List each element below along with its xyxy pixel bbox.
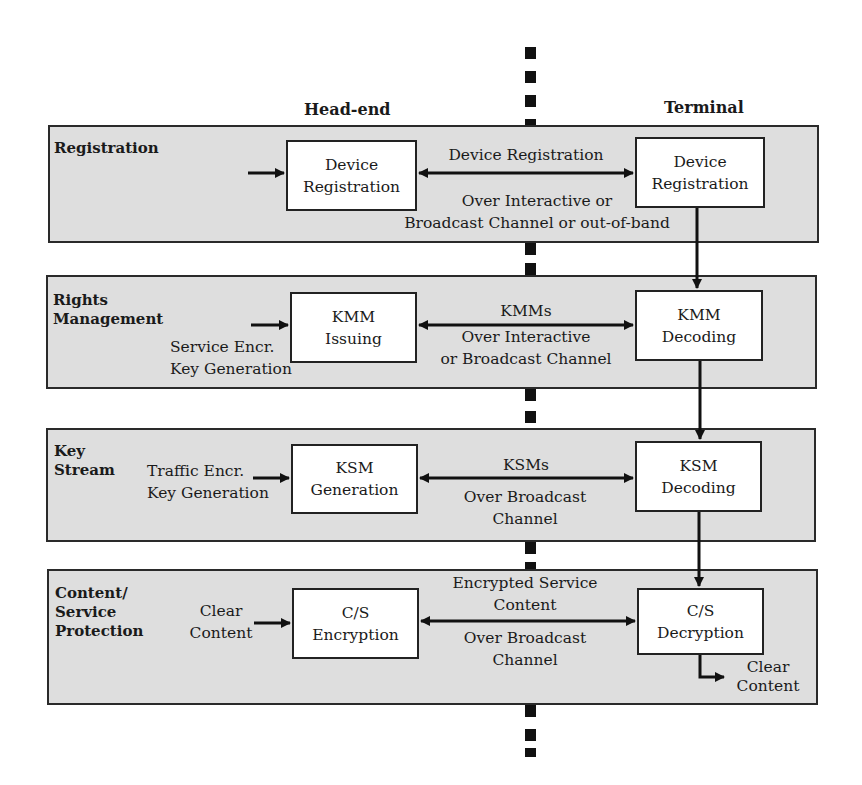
- head-end-cs-encryption-box: C/S Encryption: [292, 588, 419, 659]
- box-label-line: KMM: [677, 304, 720, 326]
- band-title: Content/ Service Protection: [55, 584, 143, 641]
- terminal-kmm-decoding-box: KMM Decoding: [635, 290, 763, 361]
- traffic-key-generation-label: Traffic Encr. Key Generation: [147, 460, 269, 504]
- head-end-ksm-generation-box: KSM Generation: [291, 444, 418, 514]
- channel-description-label: Over Interactive or Broadcast Channel or…: [392, 190, 682, 234]
- box-label-line: Device: [325, 154, 378, 176]
- channel-message-label: Device Registration: [417, 144, 635, 166]
- channel-description-label: Over Broadcast Channel: [440, 627, 610, 671]
- band-title: Registration: [54, 139, 159, 158]
- channel-message-label: KSMs: [417, 454, 635, 476]
- box-label-line: KMM: [332, 306, 375, 328]
- channel-description-label: Over Broadcast Channel: [440, 486, 610, 530]
- band-title: Key Stream: [54, 442, 115, 480]
- channel-description-label: Over Interactive or Broadcast Channel: [430, 326, 622, 370]
- box-label-line: Issuing: [325, 328, 382, 350]
- box-label-line: C/S: [687, 600, 715, 622]
- box-label-line: KSM: [335, 457, 373, 479]
- box-label-line: KSM: [679, 455, 717, 477]
- box-label-line: Decoding: [661, 477, 735, 499]
- channel-message-label: KMMs: [417, 300, 635, 322]
- box-label-line: Encryption: [312, 624, 399, 646]
- service-key-generation-label: Service Encr. Key Generation: [170, 336, 292, 380]
- terminal-cs-decryption-box: C/S Decryption: [637, 588, 764, 655]
- band-title: Rights Management: [53, 291, 163, 329]
- box-label-line: Device: [673, 151, 726, 173]
- box-label-line: Decryption: [657, 622, 744, 644]
- head-end-kmm-issuing-box: KMM Issuing: [290, 292, 417, 363]
- box-label-line: C/S: [342, 602, 370, 624]
- channel-message-label: Encrypted Service Content: [420, 572, 630, 616]
- clear-content-output-label: Clear Content: [732, 658, 804, 696]
- head-end-column-header: Head-end: [304, 100, 391, 119]
- terminal-column-header: Terminal: [664, 98, 744, 117]
- terminal-ksm-decoding-box: KSM Decoding: [635, 441, 762, 512]
- box-label-line: Generation: [311, 479, 399, 501]
- clear-content-input-label: Clear Content: [186, 600, 256, 644]
- box-label-line: Registration: [303, 176, 400, 198]
- box-label-line: Decoding: [662, 326, 736, 348]
